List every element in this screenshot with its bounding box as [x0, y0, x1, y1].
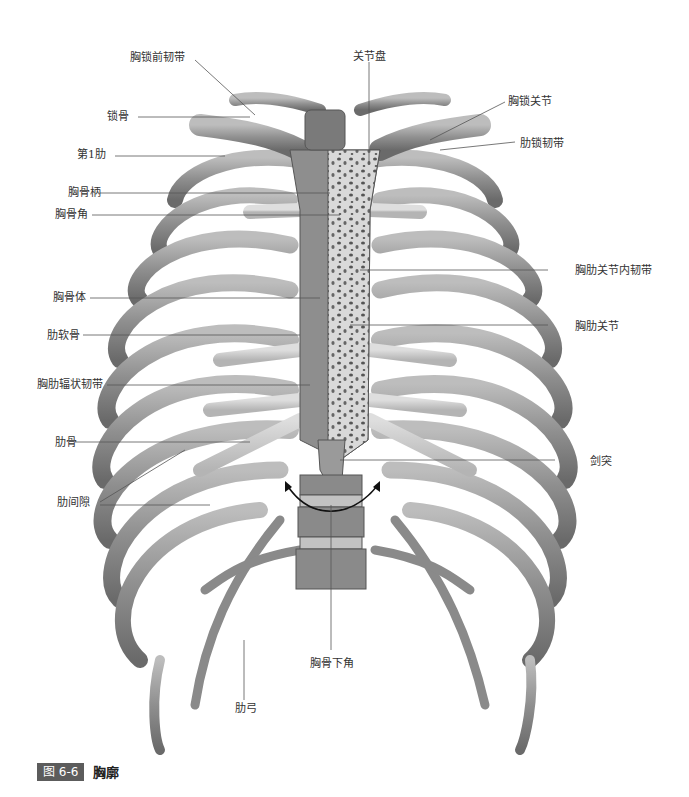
figure-number: 图 6-6: [37, 763, 84, 781]
label-manubrium: 胸骨柄: [68, 186, 101, 199]
label-sternoclavicular-anterior-ligament: 胸锁前韧带: [130, 51, 185, 64]
label-radiate-sternocostal-ligament: 胸肋辐状韧带: [37, 378, 103, 391]
thoracic-cage-illustration: [0, 0, 689, 797]
label-rib: 肋骨: [55, 436, 77, 449]
label-clavicle: 锁骨: [107, 110, 129, 123]
label-costal-cartilage: 肋软骨: [47, 329, 80, 342]
label-first-rib: 第1肋: [77, 148, 106, 161]
sternum: [290, 110, 380, 488]
label-costal-arch: 肋弓: [235, 702, 257, 715]
label-intercostal-space: 肋间隙: [57, 496, 90, 509]
label-sternoclavicular-joint: 胸锁关节: [508, 95, 552, 108]
label-intraarticular-sternocostal-ligament: 胸肋关节内韧带: [575, 264, 652, 277]
label-xiphoid-process: 剑突: [590, 455, 612, 468]
label-sternal-body: 胸骨体: [53, 291, 86, 304]
figure-title: 胸廓: [93, 762, 119, 781]
label-infrasternal-angle: 胸骨下角: [310, 657, 354, 670]
label-costoclavicular-ligament: 肋锁韧带: [520, 137, 564, 150]
label-articular-disc: 关节盘: [353, 50, 386, 63]
figure-caption: 图 6-6 胸廓: [37, 762, 119, 781]
label-sternal-angle: 胸骨角: [55, 208, 88, 221]
label-sternocostal-joint: 胸肋关节: [575, 320, 619, 333]
